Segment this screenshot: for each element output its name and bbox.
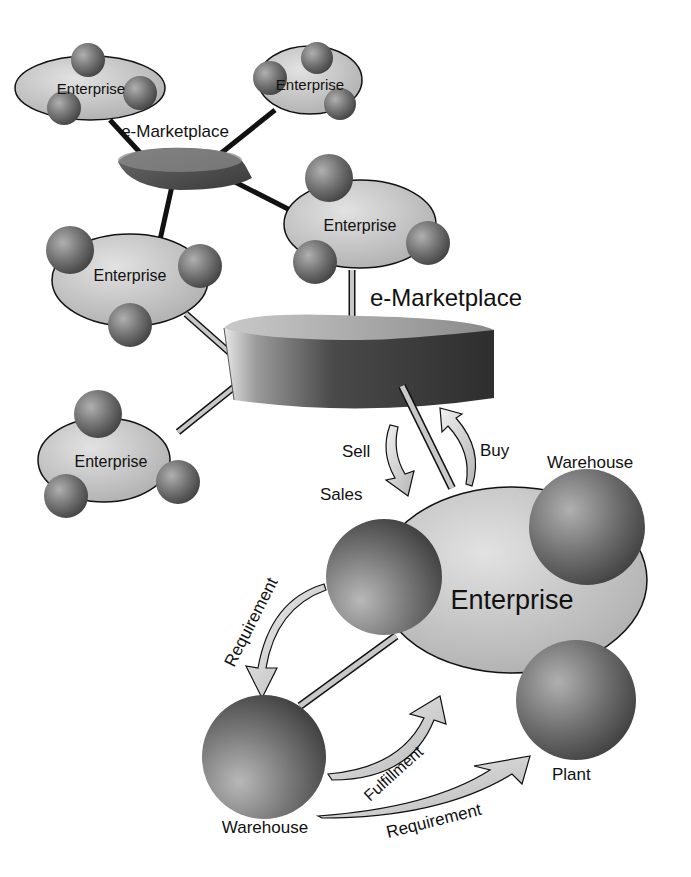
enterprise-top-left-label: Enterprise [57,80,125,97]
requirement-bottom-arrow [318,756,530,818]
sell-label: Sell [342,442,370,461]
warehouse-bottom-label: Warehouse [222,818,308,837]
enterprise-mid-right-label: Enterprise [324,217,397,234]
small-marketplace [118,148,252,190]
enterprise-top-right-label: Enterprise [276,76,344,93]
sell-arrow [386,425,414,496]
sales-label: Sales [320,485,363,504]
small-marketplace-label: e-Marketplace [121,122,229,141]
enterprise-warehouse-connector [300,636,396,706]
enterprise-bottom-left-label: Enterprise [75,453,148,470]
enterprise-mid-left-label: Enterprise [94,267,167,284]
buy-label: Buy [480,441,510,460]
large-marketplace [224,315,494,409]
requirement-left-label: Requirement [221,574,282,670]
e-marketplace-network-diagram: e-Marketplace Enterprise Enterprise Ente… [0,0,691,877]
enterprise-main-label: Enterprise [450,585,573,615]
large-marketplace-label: e-Marketplace [370,284,522,311]
plant-label: Plant [552,765,591,784]
enterprise-mid-left [46,226,222,347]
warehouse-bottom [202,695,326,819]
